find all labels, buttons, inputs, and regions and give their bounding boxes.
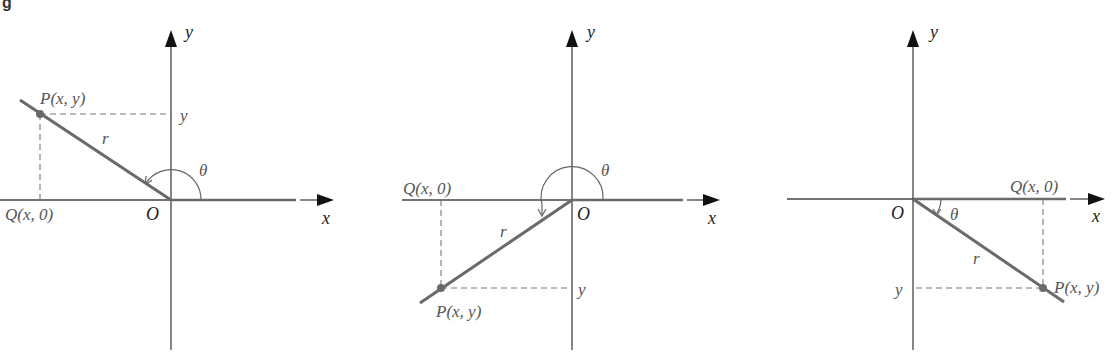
y-axis-arrow-icon <box>907 30 919 47</box>
y-axis-label: y <box>928 22 938 42</box>
polar-coordinate-figure: g y x O P(x, y) Q(x, 0) r θ y <box>0 0 1119 356</box>
point-label: P(x, y) <box>1053 278 1100 297</box>
point-p <box>36 110 44 118</box>
y-axis-arrow-icon <box>566 30 578 47</box>
angle-label: θ <box>601 161 609 180</box>
x-axis-arrow-icon <box>317 194 334 206</box>
x-axis-label: x <box>1091 206 1100 226</box>
point-p <box>1039 284 1047 292</box>
projection-label: Q(x, 0) <box>403 179 451 198</box>
projection-label: Q(x, 0) <box>5 205 53 224</box>
x-axis-arrow-icon <box>703 194 720 206</box>
y-axis-arrow-icon <box>165 30 177 47</box>
projection-label: Q(x, 0) <box>1010 177 1058 196</box>
x-axis-arrow-icon <box>1088 193 1105 205</box>
origin-label: O <box>577 204 590 224</box>
y-value-label: y <box>893 280 903 299</box>
point-label: P(x, y) <box>39 89 86 108</box>
caption-fragment: g <box>2 0 12 11</box>
x-axis-label: x <box>321 208 330 228</box>
radius-label: r <box>973 249 980 268</box>
radius-label: r <box>102 129 109 148</box>
point-label: P(x, y) <box>435 302 482 321</box>
x-axis-label: x <box>707 208 716 228</box>
y-axis-label: y <box>183 22 193 42</box>
panel-quadrant-2: y x O P(x, y) Q(x, 0) r θ y <box>0 22 334 350</box>
origin-label: O <box>891 203 904 223</box>
radius-label: r <box>500 222 507 241</box>
origin-label: O <box>146 204 159 224</box>
y-value-label: y <box>178 106 188 125</box>
angle-arc <box>146 170 201 200</box>
y-value-label: y <box>576 280 586 299</box>
angle-label: θ <box>950 205 958 224</box>
panel-quadrant-4: y x O P(x, y) Q(x, 0) r θ y <box>787 22 1105 350</box>
panel-quadrant-3: y x O P(x, y) Q(x, 0) r θ y <box>402 22 720 350</box>
point-p <box>437 284 445 292</box>
angle-label: θ <box>199 161 207 180</box>
y-axis-label: y <box>585 22 595 42</box>
